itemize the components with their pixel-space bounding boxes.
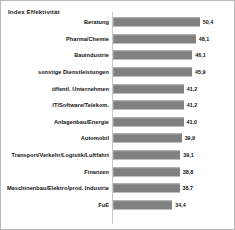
value-label: 50,4 bbox=[203, 19, 214, 25]
value-label: 39,9 bbox=[185, 135, 196, 141]
bar bbox=[113, 200, 172, 209]
category-label: Pharma/Chemie bbox=[66, 36, 109, 42]
value-label: 39,1 bbox=[183, 152, 194, 158]
value-label: 48,1 bbox=[199, 36, 210, 42]
bar bbox=[113, 151, 180, 160]
bar-row: IT/Software/Telekom.41,2 bbox=[1, 97, 235, 114]
bar-row: Beratung50,4 bbox=[1, 14, 235, 31]
bar-row: Transport/Verkehr/Logistik/Luftfahrt39,1 bbox=[1, 147, 235, 164]
value-label: 41,2 bbox=[187, 102, 198, 108]
category-label: Maschinenbau/Elektro/prod. Industrie bbox=[7, 185, 109, 191]
bar bbox=[113, 84, 184, 93]
bar bbox=[113, 117, 184, 126]
bar bbox=[113, 34, 196, 43]
value-label: 34,4 bbox=[175, 202, 186, 208]
value-label: 41,2 bbox=[187, 86, 198, 92]
category-label: Automobil bbox=[81, 135, 109, 141]
value-label: 45,9 bbox=[195, 69, 206, 75]
bar-row: Bauindustrie46,1 bbox=[1, 47, 235, 64]
category-label: IT/Software/Telekom. bbox=[52, 102, 109, 108]
bar-row: Finanzen38,8 bbox=[1, 163, 235, 180]
bar bbox=[113, 18, 200, 27]
bar-row: sonstige Dienstleistungen45,9 bbox=[1, 64, 235, 81]
category-label: Anlagenbau/Energie bbox=[54, 119, 109, 125]
value-label: 38,8 bbox=[183, 169, 194, 175]
bar bbox=[113, 101, 184, 110]
category-label: Transport/Verkehr/Logistik/Luftfahrt bbox=[12, 152, 109, 158]
bar bbox=[113, 167, 180, 176]
plot-area: Beratung50,4Pharma/Chemie48,1Bauindustri… bbox=[1, 12, 235, 228]
category-label: Beratung bbox=[84, 19, 109, 25]
bar-row: öffentl. Unternehmen41,2 bbox=[1, 80, 235, 97]
chart-container: Index Effektivität Beratung50,4Pharma/Ch… bbox=[0, 0, 235, 230]
category-label: sonstige Dienstleistungen bbox=[38, 69, 109, 75]
bar-row: FuE34,4 bbox=[1, 197, 235, 214]
category-label: Bauindustrie bbox=[74, 52, 109, 58]
bar-row: Pharma/Chemie48,1 bbox=[1, 31, 235, 48]
bar bbox=[113, 134, 182, 143]
value-label: 41,0 bbox=[187, 119, 198, 125]
category-label: öffentl. Unternehmen bbox=[52, 86, 109, 92]
bar-row: Automobil39,9 bbox=[1, 130, 235, 147]
category-label: Finanzen bbox=[84, 169, 109, 175]
bar-row: Anlagenbau/Energie41,0 bbox=[1, 114, 235, 131]
bar-row: Maschinenbau/Elektro/prod. Industrie38,7 bbox=[1, 180, 235, 197]
value-label: 46,1 bbox=[195, 52, 206, 58]
value-label: 38,7 bbox=[183, 185, 194, 191]
bar bbox=[113, 184, 180, 193]
bar bbox=[113, 51, 192, 60]
category-label: FuE bbox=[98, 202, 109, 208]
bar bbox=[113, 68, 192, 77]
